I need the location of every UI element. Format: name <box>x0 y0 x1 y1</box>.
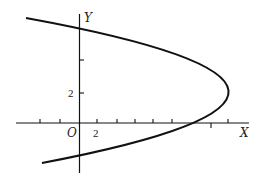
y-axis-label: Y <box>84 11 93 25</box>
parabola-diagram: Y X O 2 2 <box>0 0 263 184</box>
origin-label: O <box>67 126 77 140</box>
parabola-curve <box>26 18 229 163</box>
x-tick-label-2: 2 <box>93 127 99 139</box>
x-axis-label: X <box>239 126 249 140</box>
y-axis-ticks <box>80 60 85 93</box>
y-tick-label-2: 2 <box>68 87 74 99</box>
